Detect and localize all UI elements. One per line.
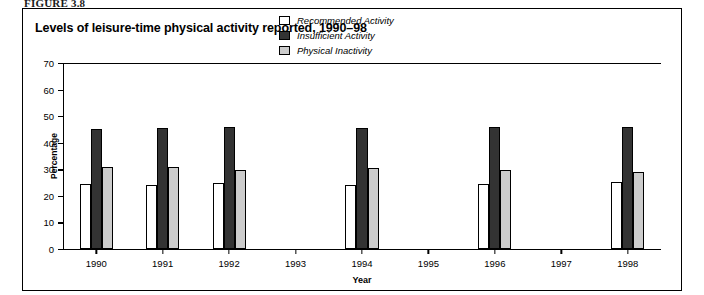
bar-recommended-1996: [478, 184, 489, 249]
bar-recommended-1990: [80, 184, 91, 249]
x-axis-tick-label: 1993: [285, 258, 306, 269]
legend-item-inactivity: Physical Inactivity: [279, 44, 394, 57]
x-axis-tick-label: 1994: [351, 258, 372, 269]
y-axis-tick-label: 20: [43, 190, 54, 201]
legend-item-insufficient: Insufficient Activity: [279, 29, 394, 42]
bar-insufficient-1994: [356, 128, 367, 249]
figure-panel: Levels of leisure-time physical activity…: [22, 8, 682, 291]
x-axis-tick: [361, 249, 362, 254]
bar-inactivity-1996: [500, 170, 511, 249]
x-axis-tick-label: 1990: [86, 258, 107, 269]
y-axis-tick: [58, 222, 63, 223]
x-axis-tick: [494, 249, 495, 254]
bar-inactivity-1994: [368, 168, 379, 249]
y-axis-tick-label: 40: [43, 137, 54, 148]
bar-insufficient-1996: [489, 127, 500, 249]
y-axis-tick: [58, 143, 63, 144]
legend-swatch-insufficient-icon: [279, 31, 290, 40]
y-axis-tick-label: 50: [43, 111, 54, 122]
y-axis-tick-label: 10: [43, 217, 54, 228]
bar-recommended-1994: [345, 185, 356, 249]
x-axis-tick: [295, 249, 296, 254]
bar-insufficient-1990: [91, 129, 102, 249]
x-axis-tick-label: 1998: [617, 258, 638, 269]
x-axis-tick: [162, 249, 163, 254]
bar-inactivity-1992: [235, 170, 246, 249]
y-axis-tick: [58, 196, 63, 197]
y-axis-tick: [58, 116, 63, 117]
bar-recommended-1992: [213, 183, 224, 249]
y-axis-tick-label: 30: [43, 164, 54, 175]
legend-label-recommended: Recommended Activity: [297, 15, 394, 26]
x-axis-tick-label: 1995: [418, 258, 439, 269]
plot-top-rule: [63, 63, 661, 64]
bar-insufficient-1991: [157, 128, 168, 249]
y-axis-tick-label: 0: [49, 244, 54, 255]
bar-inactivity-1998: [633, 172, 644, 249]
figure-page: FIGURE 3.8 Levels of leisure-time physic…: [0, 0, 704, 295]
legend-item-recommended: Recommended Activity: [279, 14, 394, 27]
x-axis-tick: [561, 249, 562, 254]
legend-swatch-recommended-icon: [279, 16, 290, 25]
y-axis-line: [63, 63, 64, 249]
bar-inactivity-1991: [168, 167, 179, 249]
bar-recommended-1991: [146, 185, 157, 249]
legend-label-insufficient: Insufficient Activity: [297, 30, 375, 41]
bar-insufficient-1998: [622, 127, 633, 249]
y-axis-tick: [58, 169, 63, 170]
bar-insufficient-1992: [224, 127, 235, 249]
legend-label-inactivity: Physical Inactivity: [297, 45, 372, 56]
x-axis-tick: [428, 249, 429, 254]
x-axis-tick-label: 1996: [484, 258, 505, 269]
x-axis-tick-label: 1997: [551, 258, 572, 269]
x-axis-tick-label: 1991: [152, 258, 173, 269]
y-axis-tick: [58, 249, 63, 250]
y-axis-tick: [58, 63, 63, 64]
x-axis-title: Year: [352, 275, 371, 285]
legend-swatch-inactivity-icon: [279, 46, 290, 55]
x-axis-tick-label: 1992: [219, 258, 240, 269]
bar-inactivity-1990: [102, 167, 113, 249]
plot-area: Percentage Year 010203040506070199019911…: [63, 63, 661, 249]
y-axis-tick-label: 60: [43, 84, 54, 95]
y-axis-tick-label: 70: [43, 58, 54, 69]
chart-legend: Recommended Activity Insufficient Activi…: [279, 14, 394, 59]
bar-recommended-1998: [611, 182, 622, 249]
x-axis-tick: [228, 249, 229, 254]
y-axis-tick: [58, 90, 63, 91]
x-axis-tick: [627, 249, 628, 254]
x-axis-tick: [96, 249, 97, 254]
